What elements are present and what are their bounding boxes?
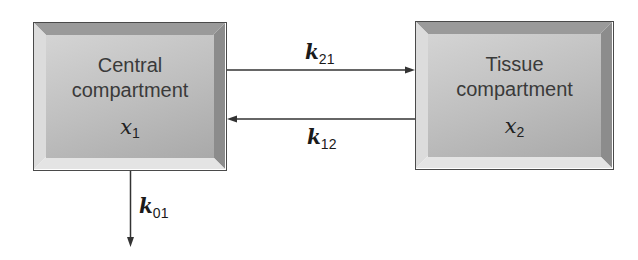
rate-k21-label: k21 [305, 40, 334, 67]
arrow-down-icon [127, 237, 134, 247]
rate-symbol: k [307, 125, 321, 149]
rate-symbol: k [139, 194, 153, 218]
rate-k12-label: k12 [307, 125, 336, 152]
rate-subscript: 12 [321, 136, 337, 152]
rate-symbol: k [305, 40, 319, 64]
rate-subscript: 01 [153, 205, 169, 221]
rate-subscript: 21 [319, 51, 335, 67]
arrow-right-icon [405, 67, 415, 74]
arrow-left-icon [227, 116, 237, 123]
rate-k01-label: k01 [139, 194, 168, 221]
